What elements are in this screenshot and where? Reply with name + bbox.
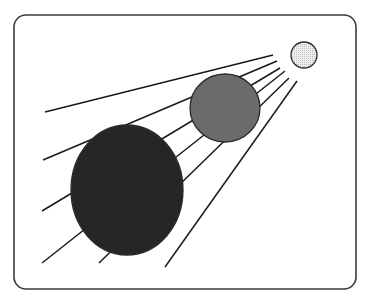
large-sphere bbox=[71, 125, 183, 255]
medium-sphere bbox=[190, 74, 260, 142]
sun-icon bbox=[291, 42, 317, 68]
diagram-canvas bbox=[0, 0, 371, 305]
